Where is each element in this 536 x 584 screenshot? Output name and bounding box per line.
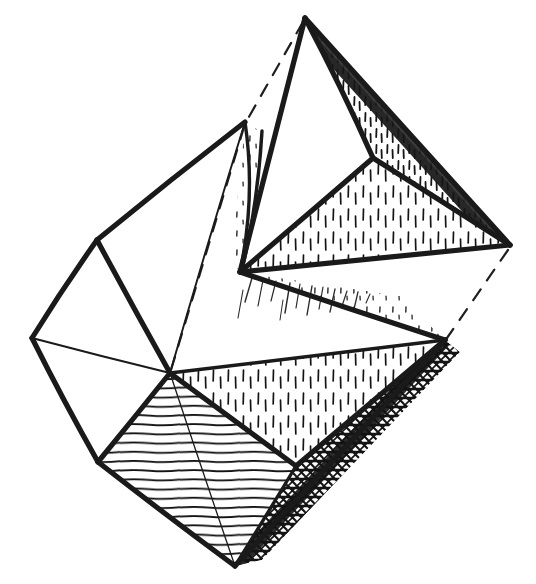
crystal-illustration [0, 0, 536, 584]
crystal-figure-root [0, 0, 536, 584]
